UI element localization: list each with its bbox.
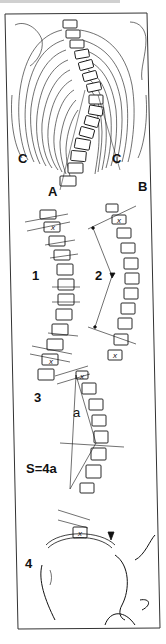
label-c-right: C bbox=[112, 152, 121, 165]
panel-2-spine bbox=[106, 204, 139, 360]
panel-3-spine bbox=[73, 371, 108, 538]
label-a: A bbox=[48, 185, 57, 198]
label-panel-2: 2 bbox=[95, 269, 102, 282]
label-panel-1: 1 bbox=[32, 269, 39, 282]
panel-4-pelvis bbox=[41, 534, 155, 625]
label-a-distance: a bbox=[73, 406, 80, 419]
label-panel-4: 4 bbox=[25, 557, 32, 570]
label-panel-3: 3 bbox=[34, 391, 41, 404]
label-b: B bbox=[138, 180, 147, 193]
label-formula: S=4a bbox=[26, 462, 57, 475]
spine-diagram: x x x x x x bbox=[0, 0, 166, 644]
panel-1-spine bbox=[38, 210, 74, 380]
label-c-left: C bbox=[18, 152, 27, 165]
